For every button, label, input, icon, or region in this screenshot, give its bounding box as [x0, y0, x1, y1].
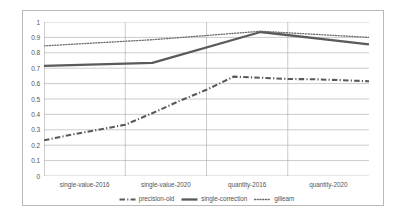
- solid-swatch: [181, 197, 198, 202]
- x-axis: single-value-2016single-value-2020quanti…: [44, 180, 369, 192]
- chart-plot-area: [44, 22, 369, 176]
- y-axis-tick-label: 0.4: [20, 111, 40, 118]
- chart-legend: precision-oldsingle-correctiongilleam: [44, 193, 369, 205]
- y-axis-tick-label: 0.3: [20, 126, 40, 133]
- x-axis-tick-label: single-value-2016: [44, 180, 125, 192]
- legend-label: precision-old: [139, 195, 175, 203]
- y-axis-tick-label: 0: [20, 173, 40, 180]
- y-axis-tick-label: 1: [20, 19, 40, 26]
- y-axis-tick-label: 0.5: [20, 96, 40, 103]
- y-axis-tick-label: 0.2: [20, 142, 40, 149]
- x-axis-tick-label: quantity-2020: [288, 180, 369, 192]
- y-axis-tick-label: 0.6: [20, 80, 40, 87]
- y-axis-tick-label: 0.9: [20, 34, 40, 41]
- y-axis-tick-label: 0.1: [20, 157, 40, 164]
- y-axis: 00.10.20.30.40.50.60.70.80.91: [18, 22, 40, 176]
- dotted-swatch: [254, 197, 271, 202]
- chart-series-svg: [44, 22, 369, 176]
- dash-dot-swatch: [119, 197, 136, 202]
- legend-label: gilleam: [274, 195, 294, 203]
- x-axis-tick-label: quantity-2016: [207, 180, 288, 192]
- chart-container: 00.10.20.30.40.50.60.70.80.91 single-val…: [0, 0, 399, 220]
- legend-item-single-correction[interactable]: single-correction: [181, 195, 247, 203]
- y-axis-tick-label: 0.7: [20, 65, 40, 72]
- legend-item-precision-old[interactable]: precision-old: [119, 195, 175, 203]
- y-axis-tick-label: 0.8: [20, 49, 40, 56]
- x-axis-tick-label: single-value-2020: [125, 180, 206, 192]
- legend-item-gilleam[interactable]: gilleam: [254, 195, 294, 203]
- legend-label: single-correction: [201, 195, 247, 203]
